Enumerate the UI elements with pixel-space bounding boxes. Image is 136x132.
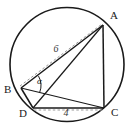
angle-label-alpha: α — [37, 76, 42, 86]
circumscribed-circle — [10, 8, 124, 122]
segment-ac — [103, 25, 104, 108]
vertex-label-a: A — [110, 9, 118, 21]
segment-bc — [21, 88, 104, 108]
length-label-ba: 6 — [54, 43, 59, 54]
segment-ad — [33, 25, 103, 108]
geometry-canvas: A B C D 6 4 α — [0, 0, 136, 132]
length-label-dc: 4 — [64, 107, 69, 118]
vertex-label-c: C — [111, 106, 118, 118]
vertex-label-b: B — [4, 83, 11, 95]
segment-ab — [21, 25, 103, 88]
dashed-segment-ba — [20, 24, 102, 86]
geometry-figure: A B C D 6 4 α — [0, 0, 136, 132]
vertex-label-d: D — [19, 107, 27, 119]
